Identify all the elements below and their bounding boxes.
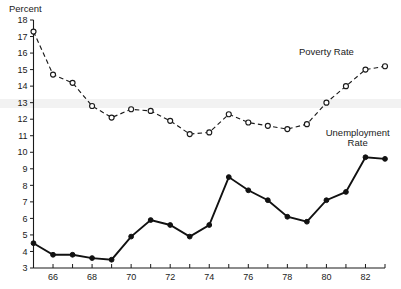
unemployment-rate-point — [265, 198, 270, 203]
x-tick-label: 66 — [48, 272, 58, 282]
y-tick-label: 8 — [22, 181, 27, 191]
unemployment-rate-point — [226, 175, 231, 180]
y-tick-label: 11 — [18, 131, 27, 141]
unemployment-rate-point — [304, 219, 309, 224]
poverty-rate-point — [129, 107, 134, 112]
unemployment-rate-point — [31, 241, 36, 246]
poverty-rate-point — [343, 84, 348, 89]
chart-background — [0, 0, 401, 289]
y-tick-label: 10 — [17, 147, 27, 157]
unemployment-rate-point — [168, 223, 173, 228]
unemployment-rate-point — [383, 156, 388, 161]
poverty-rate-point — [70, 80, 75, 85]
unemployment-rate-point — [285, 214, 290, 219]
unemployment-rate-point — [363, 155, 368, 160]
poverty-rate-point — [207, 130, 212, 135]
y-tick-label: 4 — [22, 247, 27, 257]
horizontal-band-artifact — [0, 99, 401, 108]
unemployment-rate-point — [207, 223, 212, 228]
unemployment-rate-point — [344, 190, 349, 195]
y-axis-title: Percent — [9, 3, 42, 14]
x-tick-label: 74 — [204, 272, 214, 282]
poverty-rate-point — [90, 103, 95, 108]
poverty-rate-point — [383, 64, 388, 69]
unemployment-rate-point — [109, 257, 114, 262]
chart-container: 3456789101112131415161718 66687072747678… — [0, 0, 401, 289]
series-annotation-3: Rate — [348, 137, 368, 148]
y-tick-label: 13 — [17, 98, 27, 108]
poverty-rate-point — [265, 123, 270, 128]
poverty-rate-point — [168, 118, 173, 123]
unemployment-rate-point — [187, 234, 192, 239]
x-tick-label: 76 — [243, 272, 253, 282]
x-tick-label: 80 — [321, 272, 331, 282]
y-tick-label: 5 — [22, 230, 27, 240]
unemployment-rate-point — [51, 252, 56, 257]
x-tick-label: 70 — [126, 272, 136, 282]
line-chart: 3456789101112131415161718 66687072747678… — [0, 0, 401, 289]
poverty-rate-point — [31, 29, 36, 34]
y-tick-label: 15 — [17, 65, 27, 75]
poverty-rate-point — [148, 108, 153, 113]
unemployment-rate-point — [129, 234, 134, 239]
poverty-rate-point — [363, 67, 368, 72]
poverty-rate-point — [246, 120, 251, 125]
y-tick-label: 16 — [17, 48, 27, 58]
series-annotation-1: Poverty Rate — [299, 46, 354, 57]
poverty-rate-point — [226, 112, 231, 117]
y-tick-label: 17 — [17, 32, 27, 42]
y-tick-label: 14 — [17, 81, 27, 91]
y-tick-label: 7 — [22, 197, 27, 207]
y-tick-label: 3 — [22, 263, 27, 273]
y-tick-label: 18 — [17, 15, 27, 25]
unemployment-rate-point — [90, 256, 95, 261]
poverty-rate-point — [51, 72, 56, 77]
y-tick-label: 9 — [22, 164, 27, 174]
x-tick-label: 72 — [165, 272, 175, 282]
x-tick-label: 82 — [360, 272, 370, 282]
x-tick-label: 78 — [282, 272, 292, 282]
poverty-rate-point — [324, 100, 329, 105]
poverty-rate-point — [285, 127, 290, 132]
x-tick-label: 68 — [87, 272, 97, 282]
poverty-rate-point — [187, 132, 192, 137]
y-tick-label: 6 — [22, 214, 27, 224]
unemployment-rate-point — [70, 252, 75, 257]
unemployment-rate-point — [148, 218, 153, 223]
unemployment-rate-point — [246, 188, 251, 193]
unemployment-rate-point — [324, 198, 329, 203]
poverty-rate-point — [109, 115, 114, 120]
y-tick-label: 12 — [17, 114, 27, 124]
poverty-rate-point — [304, 122, 309, 127]
